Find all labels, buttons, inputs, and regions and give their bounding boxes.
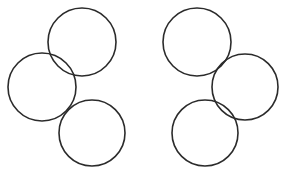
figure-canvas <box>0 0 287 179</box>
circles-diagram <box>0 0 287 179</box>
diagram-background <box>0 0 287 179</box>
